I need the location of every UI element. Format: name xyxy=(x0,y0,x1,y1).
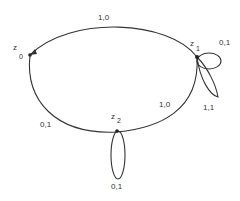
edge-label-z1-loop-b: 1,1 xyxy=(203,103,215,112)
node-label-z0-index: 0 xyxy=(19,53,23,60)
state-diagram: z 0 z 1 z 2 1,0 0,1 1,0 0,1 1,1 0,1 xyxy=(0,0,240,201)
node-z1 xyxy=(195,55,199,59)
node-z2 xyxy=(115,129,119,133)
node-label-z1-index: 1 xyxy=(196,45,200,52)
edge-label-z2-loop: 0,1 xyxy=(111,182,123,191)
self-loop-z2 xyxy=(111,131,125,179)
node-label-z0-letter: z xyxy=(13,43,17,52)
node-label-z2-letter: z xyxy=(111,112,115,121)
self-loop-z1-b xyxy=(197,57,218,97)
edge-label-z1-loop-a: 0,1 xyxy=(219,38,231,47)
edge-label-z0-z2: 0,1 xyxy=(40,120,52,129)
edge-z1-z0 xyxy=(30,27,197,57)
edge-label-z1-z0: 1,0 xyxy=(98,13,110,22)
node-label-z1-letter: z xyxy=(190,39,194,48)
node-z0 xyxy=(28,53,32,57)
node-label-z2-index: 2 xyxy=(117,117,121,124)
edge-label-z2-z1: 1,0 xyxy=(159,100,171,109)
edge-z2-z1 xyxy=(117,57,197,132)
